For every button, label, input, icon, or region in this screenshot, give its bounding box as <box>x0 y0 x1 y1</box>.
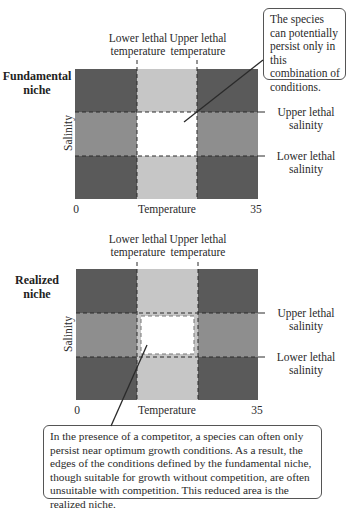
cell-lethal-temperature <box>198 313 258 357</box>
label-line: Upper lethal <box>266 106 346 119</box>
x-axis-min: 0 <box>71 404 83 417</box>
cell-lethal-salinity <box>137 69 197 112</box>
x-axis-max: 35 <box>247 404 267 417</box>
salinity-axis-label: Salinity <box>62 103 74 163</box>
cell-lethal-both <box>198 357 258 400</box>
realized-niche-title: Realized niche <box>0 273 74 301</box>
x-axis-max: 35 <box>246 203 266 216</box>
cell-lethal-both <box>76 357 137 400</box>
upper-lethal-temperature-label: Upper lethal temperature <box>160 233 236 259</box>
realized-callout: In the presence of a competitor, a speci… <box>43 425 322 499</box>
label-line: Lower lethal <box>266 351 346 364</box>
fundamental-niche-title: Fundamental niche <box>0 69 74 97</box>
cell-lethal-salinity <box>137 269 198 313</box>
cell-lethal-temperature <box>75 112 137 156</box>
title-line: niche <box>0 287 74 301</box>
cell-lethal-temperature <box>76 313 137 357</box>
cell-lethal-temperature <box>197 112 258 156</box>
title-line: Fundamental <box>0 69 74 83</box>
cell-lethal-both <box>76 269 137 313</box>
label-line: Upper lethal <box>160 32 236 45</box>
cell-lethal-both <box>198 269 258 313</box>
cell-lethal-both <box>197 156 258 199</box>
upper-lethal-temperature-label: Upper lethal temperature <box>160 32 236 58</box>
fundamental-callout: The species can potentially persist only… <box>263 8 346 80</box>
label-line: Upper lethal <box>266 307 346 320</box>
x-axis-min: 0 <box>70 203 82 216</box>
title-line: niche <box>0 83 74 97</box>
upper-lethal-salinity-label: Upper lethal salinity <box>266 307 346 333</box>
temperature-axis-label: Temperature <box>127 404 207 417</box>
salinity-axis-label: Salinity <box>62 304 74 364</box>
cell-lethal-salinity <box>137 156 197 199</box>
label-line: temperature <box>160 45 236 58</box>
label-line: Lower lethal <box>266 150 346 163</box>
temperature-axis-label: Temperature <box>127 203 207 216</box>
label-line: salinity <box>266 320 346 333</box>
label-line: temperature <box>160 246 236 259</box>
cell-lethal-both <box>75 156 137 199</box>
upper-lethal-salinity-label: Upper lethal salinity <box>266 106 346 132</box>
label-line: salinity <box>266 364 346 377</box>
cell-lethal-both <box>75 69 137 112</box>
cell-fundamental-niche <box>137 112 197 156</box>
lower-lethal-salinity-label: Lower lethal salinity <box>266 150 346 176</box>
cell-realized-niche <box>141 316 194 354</box>
cell-lethal-salinity <box>137 357 198 400</box>
cell-lethal-both <box>197 69 258 112</box>
lower-lethal-salinity-label: Lower lethal salinity <box>266 351 346 377</box>
label-line: salinity <box>266 163 346 176</box>
title-line: Realized <box>0 273 74 287</box>
label-line: Upper lethal <box>160 233 236 246</box>
label-line: salinity <box>266 119 346 132</box>
